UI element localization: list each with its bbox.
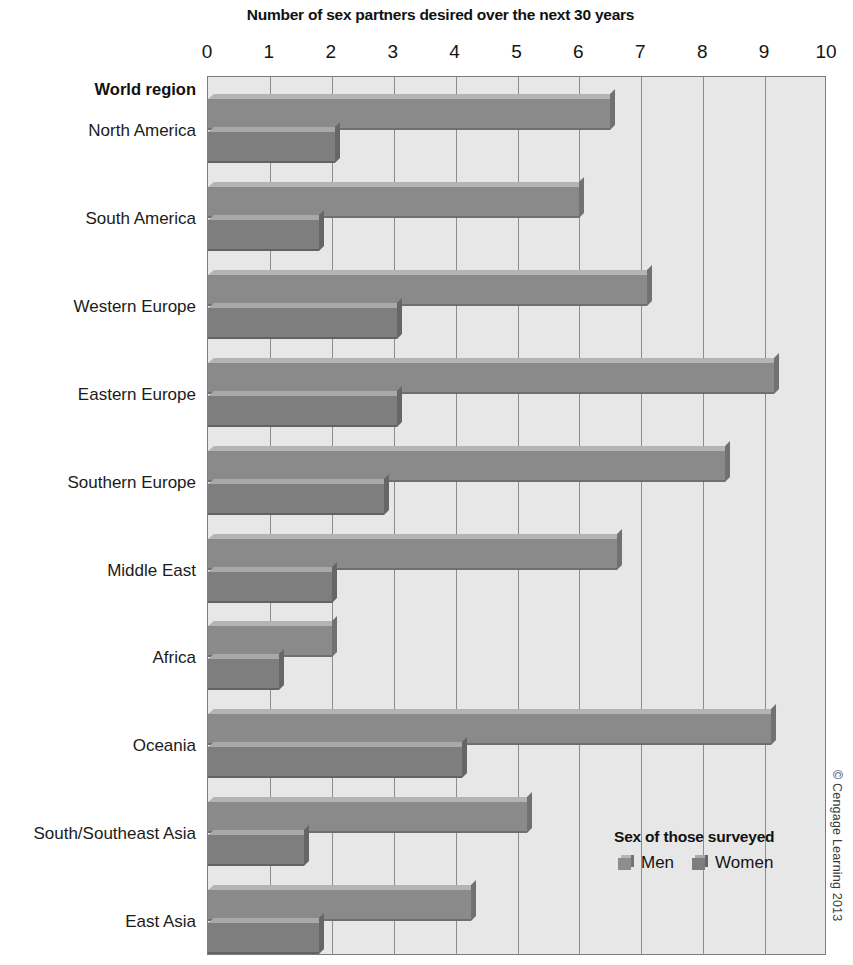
legend-swatch-men-icon: [618, 855, 634, 870]
bar-front-face: [208, 132, 335, 163]
x-tick-label-1: 1: [249, 42, 289, 61]
x-tick-label-8: 8: [682, 42, 722, 61]
bar-group-north-america: [208, 77, 825, 165]
bar-men-east-asia: [208, 890, 471, 921]
legend-title: Sex of those surveyed: [612, 828, 827, 846]
bar-women-western-europe: [208, 308, 397, 339]
bar-front-face: [208, 835, 304, 866]
legend: Sex of those surveyed MenWomen: [612, 828, 827, 871]
bar-side-face: [319, 913, 324, 954]
bar-men-western-europe: [208, 275, 647, 306]
y-axis-title: World region: [0, 80, 196, 99]
bar-men-oceania: [208, 714, 771, 745]
bar-side-face: [725, 441, 730, 482]
category-label-middle-east: Middle East: [0, 562, 196, 579]
legend-label-women: Women: [715, 854, 773, 871]
bar-women-eastern-europe: [208, 396, 397, 427]
bar-front-face: [208, 659, 279, 690]
bar-front-face: [208, 99, 610, 130]
category-label-western-europe: Western Europe: [0, 298, 196, 315]
bar-group-western-europe: [208, 253, 825, 341]
category-label-south-southeast-asia: South/Southeast Asia: [0, 825, 196, 842]
bar-front-face: [208, 923, 319, 954]
bar-men-africa: [208, 626, 332, 657]
bar-men-north-america: [208, 99, 610, 130]
bar-front-face: [208, 308, 397, 339]
bar-group-southern-europe: [208, 429, 825, 517]
plot-area: [207, 76, 826, 955]
bar-side-face: [647, 265, 652, 306]
bar-side-face: [304, 825, 309, 866]
bar-group-africa: [208, 604, 825, 692]
bar-side-face: [462, 737, 467, 778]
x-tick-label-10: 10: [806, 42, 846, 61]
bar-front-face: [208, 484, 384, 515]
bar-front-face: [208, 451, 725, 482]
copyright-notice: © Cengage Learning 2013: [830, 770, 844, 960]
bar-front-face: [208, 626, 332, 657]
bar-group-oceania: [208, 692, 825, 780]
bar-front-face: [208, 890, 471, 921]
chart-title-text: Number of sex partners desired over the …: [247, 6, 634, 24]
bar-side-face: [384, 474, 389, 515]
bar-women-middle-east: [208, 572, 332, 603]
legend-label-men: Men: [641, 854, 674, 871]
bar-side-face: [397, 386, 402, 427]
legend-item-women[interactable]: Women: [692, 854, 773, 871]
bar-men-south-southeast-asia: [208, 802, 527, 833]
bar-side-face: [610, 89, 615, 130]
bar-men-eastern-europe: [208, 363, 774, 394]
bar-front-face: [208, 187, 579, 218]
bar-front-face: [208, 747, 462, 778]
bar-side-face: [332, 562, 337, 603]
x-tick-label-3: 3: [373, 42, 413, 61]
bar-front-face: [208, 539, 617, 570]
bar-women-south-america: [208, 220, 319, 251]
bar-side-face: [332, 616, 337, 657]
bar-group-south-america: [208, 165, 825, 253]
x-tick-label-9: 9: [744, 42, 784, 61]
bar-group-east-asia: [208, 868, 825, 955]
bar-women-africa: [208, 659, 279, 690]
bar-women-southern-europe: [208, 484, 384, 515]
bar-women-south-southeast-asia: [208, 835, 304, 866]
x-tick-label-0: 0: [187, 42, 227, 61]
category-label-north-america: North America: [0, 122, 196, 139]
bar-side-face: [617, 529, 622, 570]
bar-side-face: [774, 353, 779, 394]
category-label-oceania: Oceania: [0, 737, 196, 754]
bar-women-oceania: [208, 747, 462, 778]
x-tick-label-7: 7: [620, 42, 660, 61]
bar-men-middle-east: [208, 539, 617, 570]
legend-swatch-women-icon: [692, 855, 708, 870]
bar-men-southern-europe: [208, 451, 725, 482]
chart-title: Number of sex partners desired over the …: [0, 6, 853, 24]
category-label-south-america: South America: [0, 210, 196, 227]
x-tick-label-5: 5: [497, 42, 537, 61]
category-label-east-asia: East Asia: [0, 913, 196, 930]
bar-side-face: [579, 177, 584, 218]
bar-men-south-america: [208, 187, 579, 218]
x-tick-label-4: 4: [435, 42, 475, 61]
bar-front-face: [208, 572, 332, 603]
bar-front-face: [208, 396, 397, 427]
bar-front-face: [208, 802, 527, 833]
plot-inner: [208, 77, 825, 954]
category-label-southern-europe: Southern Europe: [0, 474, 196, 491]
bar-front-face: [208, 220, 319, 251]
x-tick-label-6: 6: [558, 42, 598, 61]
bar-side-face: [527, 792, 532, 833]
legend-item-men[interactable]: Men: [618, 854, 674, 871]
bar-group-middle-east: [208, 517, 825, 605]
bar-side-face: [771, 704, 776, 745]
bar-side-face: [471, 880, 476, 921]
legend-items: MenWomen: [612, 854, 827, 871]
bar-women-east-asia: [208, 923, 319, 954]
bar-front-face: [208, 363, 774, 394]
bar-women-north-america: [208, 132, 335, 163]
bar-front-face: [208, 275, 647, 306]
bar-side-face: [319, 210, 324, 251]
category-label-eastern-europe: Eastern Europe: [0, 386, 196, 403]
x-tick-label-2: 2: [311, 42, 351, 61]
bar-side-face: [335, 122, 340, 163]
